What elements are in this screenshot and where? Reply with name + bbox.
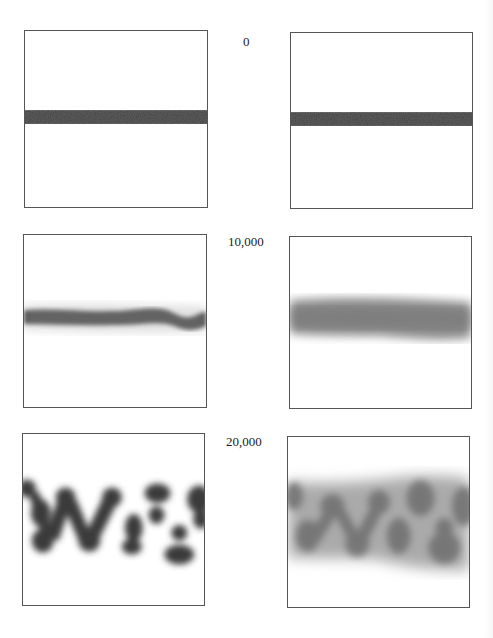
fingered-blobs-graphic: [23, 434, 204, 605]
panel-row1-right: [290, 32, 473, 209]
row-label-step-0: 0: [243, 34, 250, 50]
panel-row2-right: [289, 236, 472, 409]
diffuse-stripe-graphic: [290, 237, 471, 408]
sharp-stripe-graphic: [291, 33, 472, 208]
panel-row3-left: [22, 433, 205, 606]
row-label-step-10000: 10,000: [228, 234, 264, 250]
scan-edge-shading: [485, 0, 493, 638]
diffuse-fingered-blobs-graphic: [288, 437, 469, 607]
panel-row2-left: [23, 234, 207, 408]
sharp-stripe-graphic: [25, 31, 207, 207]
row-label-step-20000: 20,000: [226, 434, 262, 450]
panel-row1-left: [24, 30, 208, 208]
wavy-stripe-graphic: [24, 235, 206, 407]
panel-row3-right: [287, 436, 470, 608]
